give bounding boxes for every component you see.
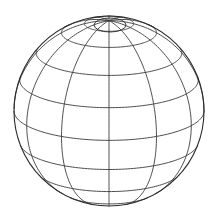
meridian-030 xyxy=(109,21,157,205)
graticule-group xyxy=(14,16,204,206)
meridian-330 xyxy=(62,21,110,205)
globe-wireframe-svg xyxy=(0,0,218,224)
globe-figure xyxy=(0,0,218,224)
